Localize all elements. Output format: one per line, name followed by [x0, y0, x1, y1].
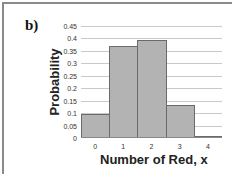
y-tick-label: 0.2 [47, 85, 77, 92]
bar-x-3 [166, 105, 195, 138]
x-tick-label: 2 [137, 143, 165, 150]
bar-x-1 [109, 46, 138, 138]
y-tick-label: 0.45 [47, 23, 77, 30]
y-tick-label: 0.25 [47, 72, 77, 79]
x-tick-label: 4 [194, 143, 222, 150]
y-tick-label: 0 [47, 135, 77, 142]
y-tick-label: 0.1 [47, 110, 77, 117]
y-tick-label: 0.3 [47, 60, 77, 67]
x-tick-label: 3 [166, 143, 194, 150]
y-tick-label: 0.15 [47, 97, 77, 104]
panel-label: b) [25, 17, 38, 34]
bar-x-0 [81, 114, 110, 138]
y-axis-label: Probability [47, 48, 62, 115]
x-axis-line [81, 137, 222, 138]
x-tick-label: 0 [81, 143, 109, 150]
x-tick-label: 1 [109, 143, 137, 150]
y-tick-label: 0.35 [47, 47, 77, 54]
bar-x-2 [137, 40, 166, 138]
x-axis-label: Number of Red, x [100, 152, 208, 167]
gridline [81, 26, 222, 27]
y-tick-label: 0.05 [47, 122, 77, 129]
y-tick-label: 0.4 [47, 35, 77, 42]
plot-area: 00.050.10.150.20.250.30.350.40.4501234 [81, 26, 222, 138]
